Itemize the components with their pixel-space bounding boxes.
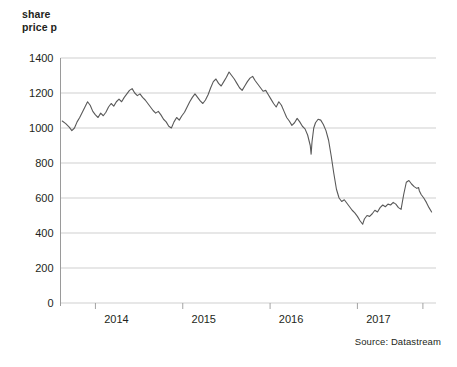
svg-text:1000: 1000 <box>29 122 53 134</box>
svg-text:0: 0 <box>47 297 53 309</box>
source-note: Source: Datastream <box>355 336 441 347</box>
svg-text:400: 400 <box>35 227 53 239</box>
share-price-line <box>62 72 431 224</box>
chart-plot-area: 0200400600800100012001400 20142015201620… <box>0 0 457 367</box>
svg-text:800: 800 <box>35 157 53 169</box>
svg-text:1200: 1200 <box>29 87 53 99</box>
x-tick-marks <box>95 303 422 309</box>
gridlines <box>61 58 437 303</box>
svg-text:200: 200 <box>35 262 53 274</box>
svg-text:600: 600 <box>35 192 53 204</box>
y-tick-labels: 0200400600800100012001400 <box>29 52 53 309</box>
svg-text:2014: 2014 <box>104 313 128 325</box>
svg-text:1400: 1400 <box>29 52 53 64</box>
svg-text:2016: 2016 <box>279 313 303 325</box>
x-tick-labels: 2014201520162017 <box>104 313 390 325</box>
share-price-chart: share price p 0200400600800100012001400 … <box>0 0 457 367</box>
svg-text:2017: 2017 <box>366 313 390 325</box>
svg-text:2015: 2015 <box>192 313 216 325</box>
